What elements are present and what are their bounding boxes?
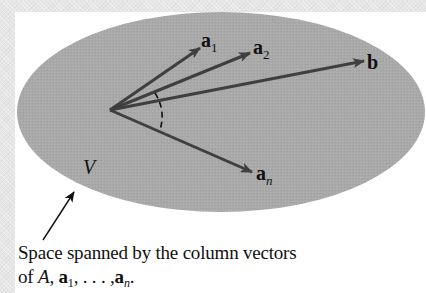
column-space-region	[17, 12, 425, 212]
label-a1: a1	[201, 30, 218, 50]
caption-line-1: Space spanned by the column vectors	[18, 241, 296, 265]
label-a2: a2	[253, 37, 270, 57]
label-region-v: V	[83, 157, 95, 177]
label-b-base: b	[367, 51, 378, 73]
caption-a1-base: a	[59, 266, 68, 287]
caption-sep: ,	[49, 266, 58, 287]
caption-line-2: of A, a1, . . . ,an.	[18, 265, 296, 289]
caption-end: .	[130, 266, 135, 287]
caption-ellipsis: , . . . ,	[74, 266, 115, 287]
pointer-arrow	[43, 192, 74, 240]
caption-prefix: of	[18, 266, 38, 287]
label-b: b	[367, 52, 378, 72]
label-a1-sub: 1	[211, 40, 218, 55]
region-v-text: V	[83, 156, 95, 178]
caption-an-base: a	[115, 266, 124, 287]
label-an-sub: n	[266, 173, 273, 188]
caption: Space spanned by the column vectors of A…	[18, 241, 296, 289]
label-a1-base: a	[201, 29, 211, 51]
label-an: an	[256, 163, 273, 183]
label-an-base: a	[256, 162, 266, 184]
label-a2-sub: 2	[263, 47, 270, 62]
caption-matrix-a: A	[38, 266, 49, 287]
label-a2-base: a	[253, 36, 263, 58]
